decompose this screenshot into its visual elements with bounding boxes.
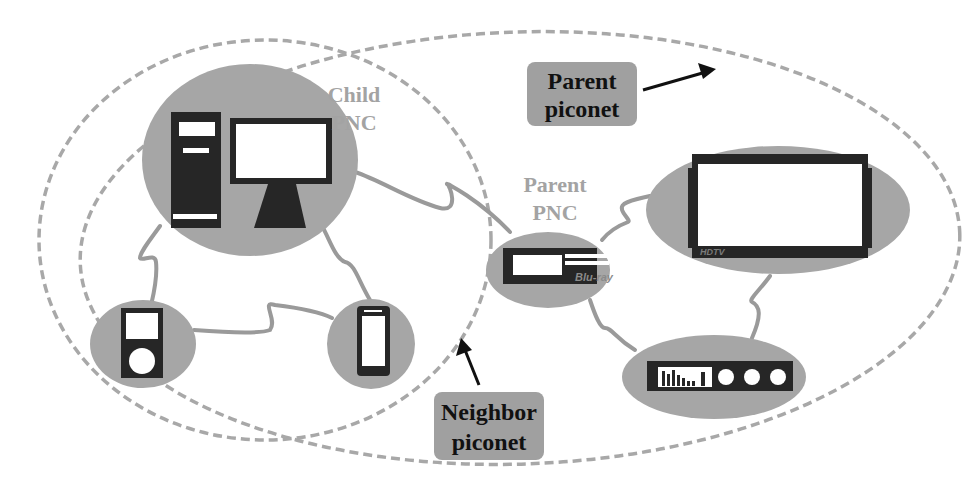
- link-pc-to-bluray: [355, 172, 510, 232]
- node-bluray-player[interactable]: Blu-ray: [486, 232, 614, 308]
- arrow-icon: [643, 63, 716, 90]
- hdtv-icon: HDTV: [688, 154, 872, 258]
- svg-text:Child: Child: [328, 82, 381, 107]
- svg-text:Parent: Parent: [548, 68, 617, 94]
- smartphone-icon: [357, 306, 390, 376]
- link-pc-to-media-player: [140, 226, 160, 310]
- svg-text:Parent: Parent: [523, 172, 587, 197]
- media-player-icon: [121, 308, 163, 378]
- svg-text:piconet: piconet: [452, 429, 527, 455]
- callout-parent-piconet: Parent piconet: [527, 62, 716, 126]
- bluray-brand-label: Blu-ray: [575, 271, 614, 283]
- svg-text:piconet: piconet: [545, 96, 620, 122]
- node-media-player[interactable]: [90, 300, 196, 388]
- audio-receiver-icon: [647, 361, 793, 391]
- link-bluray-to-receiver: [590, 300, 635, 350]
- svg-text:Neighbor: Neighbor: [441, 399, 537, 425]
- node-hdtv[interactable]: HDTV: [646, 146, 910, 274]
- link-hdtv-to-receiver: [751, 276, 770, 338]
- link-bluray-to-hdtv: [602, 196, 650, 240]
- piconet-diagram: Blu-ray HDTV: [0, 0, 974, 504]
- node-audio-receiver[interactable]: [622, 335, 806, 419]
- hdtv-brand-label: HDTV: [700, 247, 725, 257]
- svg-text:PNC: PNC: [532, 200, 577, 225]
- svg-text:PNC: PNC: [331, 110, 376, 135]
- label-parent-pnc: Parent PNC: [523, 172, 587, 225]
- callout-neighbor-piconet: Neighbor piconet: [434, 338, 544, 460]
- arrow-icon: [456, 338, 479, 385]
- link-media-player-to-smartphone: [194, 304, 332, 332]
- node-desktop-pc[interactable]: [142, 64, 358, 256]
- link-pc-to-smartphone: [322, 226, 370, 300]
- node-smartphone[interactable]: [327, 299, 415, 389]
- desktop-tower-icon: [171, 112, 221, 228]
